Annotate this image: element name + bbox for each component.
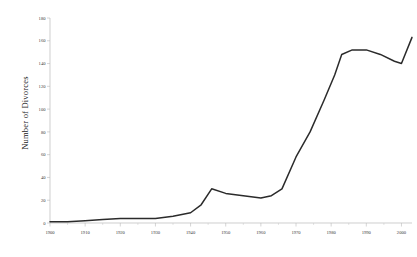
x-tick-label: 1940	[186, 230, 196, 235]
series-line	[50, 37, 412, 222]
y-tick-label: 60	[41, 152, 46, 157]
x-tick-label: 2000	[397, 230, 407, 235]
y-tick-label: 180	[39, 16, 47, 21]
y-tick-label: 140	[39, 61, 47, 66]
y-tick-label: 160	[39, 38, 47, 43]
y-tick-label: 0	[43, 221, 46, 226]
data-series-group	[50, 37, 412, 222]
x-tick-label: 1980	[327, 230, 337, 235]
x-tick-label: 1960	[256, 230, 266, 235]
divorces-line-chart: Number of Divorces 020406080100120140160…	[0, 0, 417, 257]
x-tick-label: 1920	[116, 230, 126, 235]
x-tick-label: 1950	[221, 230, 231, 235]
x-tick-label: 1900	[45, 230, 55, 235]
x-tick-label: 1990	[362, 230, 372, 235]
y-tick-label: 120	[39, 84, 47, 89]
y-tick-label: 80	[41, 130, 46, 135]
y-axis-ticks: 020406080100120140160180	[39, 16, 50, 226]
x-tick-label: 1930	[151, 230, 161, 235]
x-tick-label: 1910	[81, 230, 91, 235]
x-axis-ticks: 1900191019201930194019501960197019801990…	[45, 223, 406, 235]
y-tick-label: 40	[41, 175, 46, 180]
x-tick-label: 1970	[291, 230, 301, 235]
y-tick-label: 100	[39, 107, 47, 112]
y-tick-label: 20	[41, 198, 46, 203]
plot-area: 020406080100120140160180 190019101920193…	[0, 0, 417, 257]
